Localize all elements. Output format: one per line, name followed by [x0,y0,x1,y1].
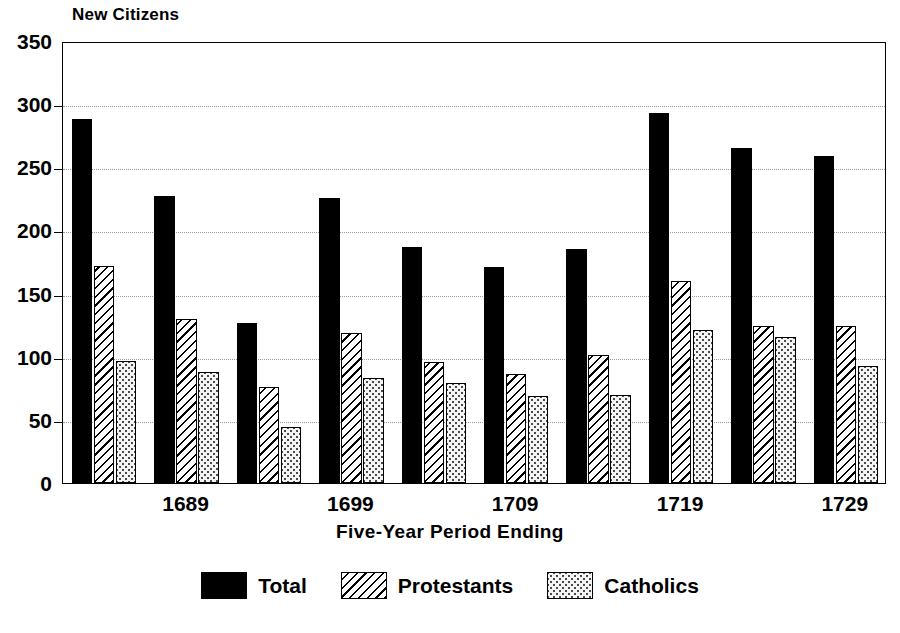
y-axis-tick-label: 350 [0,30,52,54]
bar-group [228,43,310,483]
bar-total [72,119,93,483]
legend-label: Protestants [398,574,514,598]
bar-total [566,249,587,483]
bar-catholics [198,372,219,483]
x-axis-tick-label: 1699 [327,492,374,516]
y-axis-tick-label: 100 [0,346,52,370]
y-axis-tick-label: 0 [0,472,52,496]
bar-total [649,113,670,483]
bar-group [393,43,475,483]
x-axis-tick-label: 1729 [821,492,868,516]
bar-protestants [588,355,609,483]
y-axis-tick-label: 50 [0,409,52,433]
legend-swatch-total [201,572,247,599]
bar-group [145,43,227,483]
bar-group [805,43,887,483]
y-axis-tick [54,232,63,233]
bar-group [310,43,392,483]
legend-item-protestants: Protestants [341,572,514,599]
legend-label: Total [258,574,307,598]
bar-catholics [528,396,549,483]
bar-group [475,43,557,483]
bar-protestants [341,333,362,483]
chart-axis-title-y: New Citizens [72,5,179,25]
x-axis-tick-label: 1709 [492,492,539,516]
bar-group [63,43,145,483]
plot-inner [63,43,885,483]
x-axis-tick-label: 1689 [162,492,209,516]
chart-root: New Citizens 050100150200250300350 16891… [0,0,900,633]
y-axis-tick [54,359,63,360]
bar-total [814,156,835,483]
y-axis-tick [54,296,63,297]
bar-catholics [363,378,384,483]
plot-area [62,42,886,484]
y-axis-tick-label: 150 [0,283,52,307]
bar-total [154,196,175,483]
bar-protestants [836,326,857,483]
bar-catholics [775,337,796,483]
bar-protestants [671,281,692,483]
x-axis-tick-label: 1719 [657,492,704,516]
bar-catholics [281,427,302,483]
y-axis-tick [54,422,63,423]
bar-protestants [176,319,197,483]
bar-catholics [693,330,714,483]
legend-label: Catholics [604,574,699,598]
bar-protestants [424,362,445,483]
bar-total [731,148,752,483]
bar-total [319,198,340,483]
bar-protestants [94,266,115,483]
bar-catholics [446,383,467,483]
bar-total [484,267,505,483]
bar-group [640,43,722,483]
legend-swatch-catholics [547,572,593,599]
bar-protestants [753,326,774,483]
bar-total [402,247,423,483]
y-axis-tick [54,106,63,107]
bar-catholics [116,361,137,483]
y-axis-tick-label: 250 [0,156,52,180]
legend-item-catholics: Catholics [547,572,699,599]
legend-item-total: Total [201,572,307,599]
bar-group [722,43,804,483]
bar-group [557,43,639,483]
x-axis-title: Five-Year Period Ending [0,521,900,543]
chart-legend: TotalProtestantsCatholics [0,572,900,599]
y-axis-tick [54,169,63,170]
bar-protestants [506,374,527,483]
bar-total [237,323,258,483]
bar-catholics [610,395,631,483]
legend-swatch-protestants [341,572,387,599]
y-axis-tick-label: 200 [0,219,52,243]
y-axis-tick-label: 300 [0,93,52,117]
bar-protestants [259,387,280,483]
bar-catholics [858,366,879,483]
